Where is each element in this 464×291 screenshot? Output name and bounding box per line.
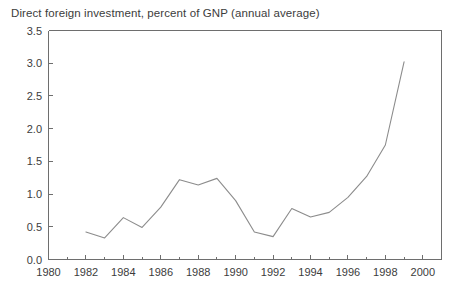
x-axis-tick-label: 1992 bbox=[261, 266, 285, 278]
data-series-group bbox=[86, 62, 404, 238]
y-axis-tick-label: 0.0 bbox=[8, 254, 42, 266]
y-axis-tick-label: 3.5 bbox=[8, 25, 42, 37]
plot-area: 0.00.51.01.52.02.53.03.51980198219841986… bbox=[0, 0, 464, 291]
y-axis-tick-label: 1.0 bbox=[8, 188, 42, 200]
y-axis-tick-label: 2.5 bbox=[8, 90, 42, 102]
x-axis-tick-label: 1982 bbox=[74, 266, 98, 278]
data-line bbox=[86, 62, 404, 238]
line-chart-svg bbox=[0, 0, 464, 291]
axis-frame bbox=[49, 31, 442, 260]
x-axis-tick-label: 2000 bbox=[411, 266, 435, 278]
y-axis-tick-label: 1.5 bbox=[8, 155, 42, 167]
x-axis-tick-label: 1988 bbox=[186, 266, 210, 278]
y-axis-tick-label: 3.0 bbox=[8, 57, 42, 69]
x-axis-tick-label: 1980 bbox=[36, 266, 60, 278]
x-axis-tick-label: 1996 bbox=[336, 266, 360, 278]
y-axis-tick-label: 0.5 bbox=[8, 221, 42, 233]
x-axis-tick-label: 1990 bbox=[223, 266, 247, 278]
axis-ticks bbox=[49, 31, 442, 260]
x-axis-tick-label: 1986 bbox=[149, 266, 173, 278]
x-axis-tick-label: 1984 bbox=[111, 266, 135, 278]
x-axis-tick-label: 1994 bbox=[298, 266, 322, 278]
x-axis-tick-label: 1998 bbox=[373, 266, 397, 278]
y-axis-tick-label: 2.0 bbox=[8, 123, 42, 135]
chart-figure: Direct foreign investment, percent of GN… bbox=[0, 0, 464, 291]
